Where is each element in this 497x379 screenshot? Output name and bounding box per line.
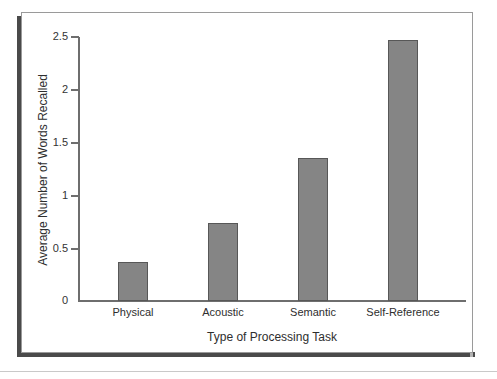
y-axis-tick-1.5	[71, 142, 79, 144]
bar-self-reference[interactable]	[388, 40, 418, 301]
bar-physical[interactable]	[118, 262, 148, 301]
x-axis-tick-label-self-reference: Self-Reference	[343, 306, 463, 319]
bar-chart-plot-area: 2.5 2 1.5 1 0.5 0 Physical Acoustic Sema…	[0, 0, 497, 379]
y-axis-tick-2	[71, 89, 79, 91]
y-axis-tick-2.5	[71, 36, 79, 38]
x-axis-title: Type of Processing Task	[78, 330, 466, 344]
bar-acoustic[interactable]	[208, 223, 238, 301]
y-axis-title: Average Number of Words Recalled	[36, 35, 50, 305]
y-axis-tick-1	[71, 195, 79, 197]
bar-semantic[interactable]	[298, 158, 328, 301]
y-axis-tick-0.5	[71, 248, 79, 250]
page-rule	[0, 371, 497, 372]
y-axis-line	[78, 37, 80, 302]
